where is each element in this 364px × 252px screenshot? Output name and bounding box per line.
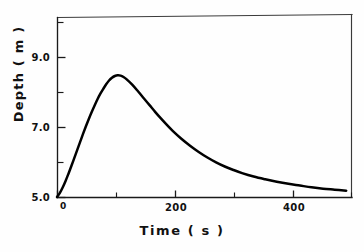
y-axis-title: Depth ( m ) xyxy=(12,4,25,144)
y-axis-ticks xyxy=(58,23,66,198)
x-tick-label-0: 0 xyxy=(60,202,66,211)
x-tick-label-200: 200 xyxy=(155,203,197,213)
x-axis-ticks xyxy=(58,191,352,198)
chart-figure: 9.0 7.0 5.0 0 200 400 Time ( s ) Depth (… xyxy=(0,0,364,252)
x-axis-title: Time ( s ) xyxy=(0,224,364,237)
y-tick-label-5: 5.0 xyxy=(22,193,50,203)
x-tick-label-400: 400 xyxy=(273,203,315,213)
chart-plot-area xyxy=(0,0,364,252)
y-axis-title-wrapper: Depth ( m ) xyxy=(12,4,32,144)
depth-time-curve xyxy=(57,75,346,197)
plot-frame-top xyxy=(58,15,353,18)
